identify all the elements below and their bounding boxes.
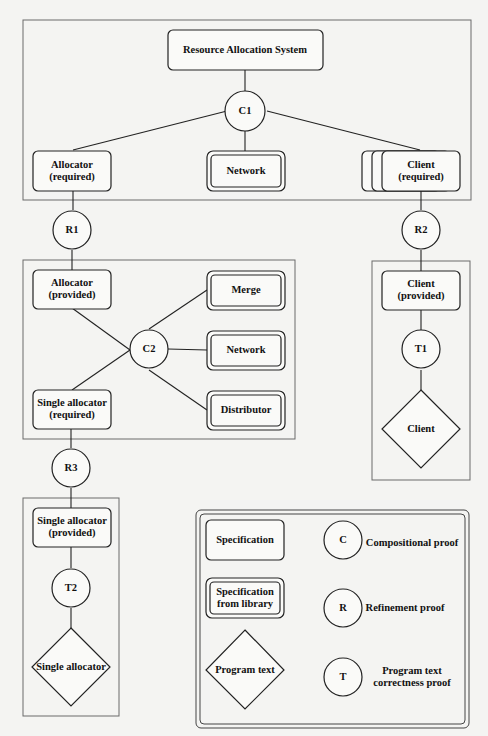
legend-t-label: T (339, 671, 346, 683)
t2-label: T2 (65, 582, 77, 594)
legend-program-label: Program text (215, 664, 275, 676)
single-allocator-required-label: Single allocator(required) (37, 397, 107, 421)
allocator-required-label: Allocator(required) (49, 159, 95, 183)
legend-r-desc: Refinement proof (366, 602, 445, 614)
r1-label: R1 (66, 224, 79, 236)
single-allocator-program-label: Single allocator (36, 661, 106, 673)
allocator-provided-label: Allocator(provided) (48, 277, 95, 301)
legend-t-desc: Program textcorrectness proof (373, 665, 450, 689)
legend-c-desc: Compositional proof (366, 537, 458, 549)
legend-r-label: R (339, 602, 347, 614)
network-label-2: Network (226, 344, 265, 356)
client-required-label: Client(required) (398, 159, 444, 183)
legend-specification-label: Specification (216, 534, 274, 546)
t1-label: T1 (415, 343, 427, 355)
client-provided-label: Client(provided) (397, 278, 444, 302)
legend-library-label: Specificationfrom library (216, 586, 274, 610)
distributor-label: Distributor (221, 404, 272, 416)
legend-c-label: C (339, 534, 347, 546)
root-label: Resource Allocation System (183, 44, 307, 56)
r2-label: R2 (415, 224, 428, 236)
r3-label: R3 (65, 462, 78, 474)
c2-label: C2 (143, 343, 156, 355)
client-program-label: Client (407, 423, 434, 435)
single-allocator-provided-label: Single allocator(provided) (37, 515, 107, 539)
merge-label: Merge (231, 284, 260, 296)
network-label: Network (226, 165, 265, 177)
c1-label: C1 (239, 105, 252, 117)
